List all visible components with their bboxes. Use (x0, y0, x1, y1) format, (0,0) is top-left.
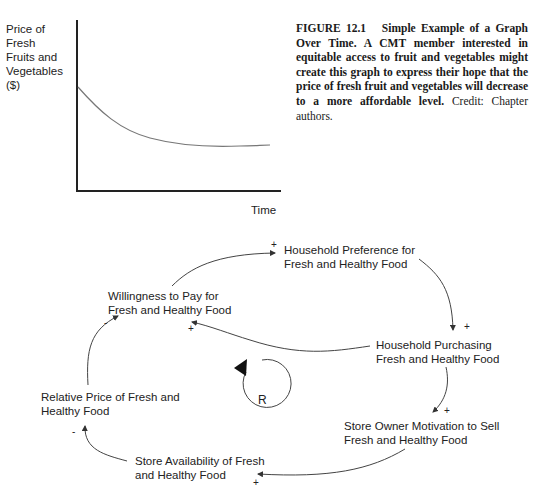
node-line: Fresh and Healthy Food (108, 303, 231, 317)
y-label-line-3: Vegetables ($) (6, 64, 76, 92)
polarity-sign: + (188, 324, 194, 334)
link-price-to-willingness (88, 316, 118, 385)
node-line: Fresh and Healthy Food (284, 257, 415, 271)
chart-x-axis-label: Time (251, 203, 276, 217)
y-label-line-2: Fruits and (6, 50, 76, 64)
chart-axes (76, 20, 281, 192)
figure-number: FIGURE 12.1 (296, 22, 366, 34)
polarity-sign: + (253, 478, 259, 488)
polarity-sign: + (444, 406, 450, 416)
link-motivation-to-availability (258, 449, 405, 475)
node-line: Fresh and Healthy Food (376, 352, 499, 366)
node-line: Store Availability of Fresh (135, 454, 265, 468)
node-line: Willingness to Pay for (108, 289, 231, 303)
chart-y-axis-label: Price of Fresh Fruits and Vegetables ($) (6, 22, 76, 92)
node-line: Fresh and Healthy Food (344, 433, 499, 447)
y-label-line-1: Price of Fresh (6, 22, 76, 50)
node-household-purchasing: Household Purchasing Fresh and Healthy F… (376, 338, 499, 366)
node-store-availability: Store Availability of Fresh and Healthy … (135, 454, 265, 482)
node-willingness-to-pay: Willingness to Pay for Fresh and Healthy… (108, 289, 231, 317)
node-household-preference: Household Preference for Fresh and Healt… (284, 243, 415, 271)
node-line: Household Preference for (284, 243, 415, 257)
node-line: Relative Price of Fresh and (41, 390, 180, 404)
node-line: Healthy Food (41, 404, 180, 418)
polarity-sign: + (271, 240, 277, 250)
node-line: and Healthy Food (135, 468, 265, 482)
link-purchasing-to-willingness (192, 322, 370, 351)
link-availability-to-price (85, 426, 127, 461)
polarity-sign: + (464, 322, 470, 332)
polarity-sign: - (72, 427, 75, 437)
polarity-sign: - (104, 318, 107, 328)
link-willingness-to-preference (172, 253, 275, 286)
price-curve (78, 87, 270, 146)
node-line: Store Owner Motivation to Sell (344, 419, 499, 433)
node-relative-price: Relative Price of Fresh and Healthy Food (41, 390, 180, 418)
node-line: Household Purchasing (376, 338, 499, 352)
figure-caption: FIGURE 12.1 Simple Example of a Graph Ov… (296, 21, 528, 123)
node-store-owner-motivation: Store Owner Motivation to Sell Fresh and… (344, 419, 499, 447)
link-preference-to-purchasing (419, 259, 453, 330)
loop-label: R (258, 393, 267, 407)
